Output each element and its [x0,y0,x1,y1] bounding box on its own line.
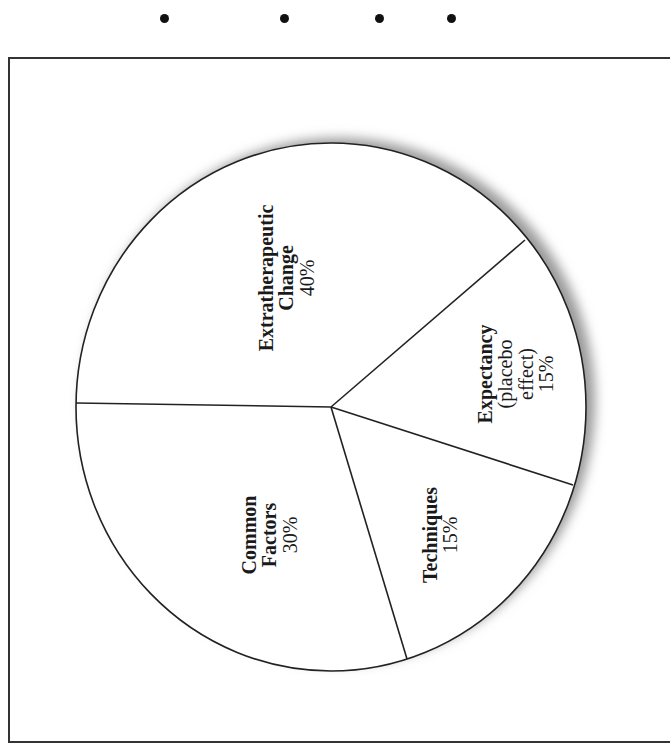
slice-label-techniques: Techniques 15% [420,487,461,583]
slice-subtitle: (placebo [496,325,516,424]
slice-label-extratherapeutic: Extratherapeutic Change 40% [256,205,317,352]
slice-percent: 15% [536,325,556,424]
slice-percent: 40% [297,205,317,352]
slice-label-expectancy: Expectancy (placebo effect) 15% [475,325,557,424]
slice-name: Change [277,205,297,352]
slice-name: Extratherapeutic [256,205,276,352]
slice-percent: 30% [280,496,300,575]
slice-label-common-factors: Common Factors 30% [239,496,300,575]
slice-name: Expectancy [475,325,495,424]
slice-name: Factors [260,496,280,575]
slice-name: Common [239,496,259,575]
slice-percent: 15% [440,487,460,583]
slice-name: Techniques [420,487,440,583]
slice-subtitle: effect) [516,325,536,424]
